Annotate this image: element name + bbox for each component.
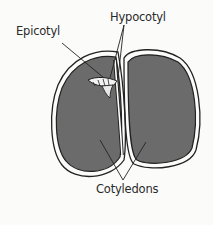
hypocotyl-label: Hypocotyl: [110, 10, 166, 24]
right-cotyledon: [124, 50, 200, 168]
cotyledons-label: Cotyledons: [96, 182, 158, 196]
epicotyl-label: Epicotyl: [16, 24, 60, 38]
